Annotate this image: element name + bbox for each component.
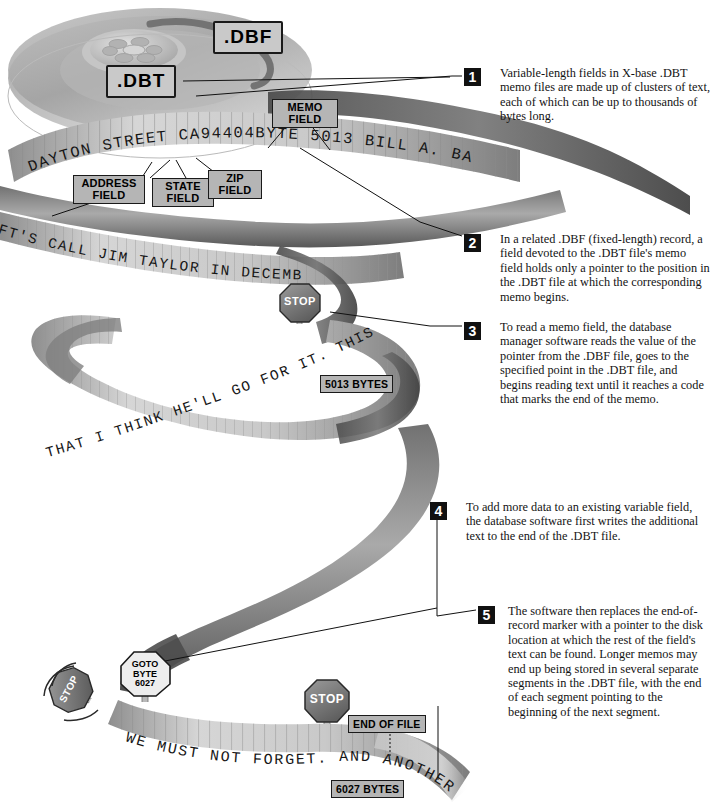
callout-5-text: The software then replaces the end-of-re… (508, 604, 704, 719)
callout-2-text: In a related .DBF (fixed-length) record,… (500, 232, 710, 304)
callout-2: 2 In a related .DBF (fixed-length) recor… (500, 232, 710, 304)
callout-3-number: 3 (464, 322, 481, 340)
illustration-canvas: .DBF .DBT MEMO FIELD ADDRESS FIELD STATE… (0, 0, 710, 811)
callout-3-text: To read a memo field, the database manag… (500, 320, 710, 406)
callout-5-number: 5 (478, 606, 495, 624)
callout-3: 3 To read a memo field, the database man… (500, 320, 710, 406)
tape-text-memo-2: THAT I THINK HE'LL GO FOR IT. THIS IS R (0, 0, 377, 461)
callout-5: 5 The software then replaces the end-of-… (508, 604, 704, 719)
tape-text-record: DAYTON STREET CA94404BYTE 5013 BILL A. B… (0, 0, 475, 176)
callout-4-text: To add more data to an existing variable… (466, 500, 704, 543)
tape-text-memo-1: FT'S CALL JIM TAYLOR IN DECEMB (0, 222, 303, 284)
callout-1: 1 Variable-length fields in X-base .DBT … (500, 66, 710, 124)
callout-1-text: Variable-length fields in X-base .DBT me… (500, 66, 710, 124)
callout-4: 4 To add more data to an existing variab… (466, 500, 704, 543)
callout-4-number: 4 (430, 502, 447, 520)
callout-2-number: 2 (464, 234, 481, 252)
callout-1-number: 1 (464, 68, 481, 86)
